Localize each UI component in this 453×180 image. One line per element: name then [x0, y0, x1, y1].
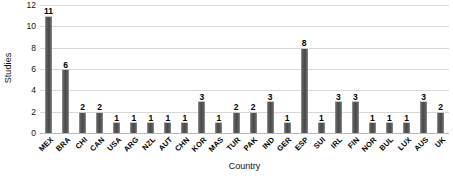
x-tick-label: LUX	[395, 135, 412, 152]
bar-value-label: 1	[387, 114, 392, 123]
bar[interactable]: 3	[267, 101, 274, 133]
bar[interactable]: 1	[113, 122, 120, 133]
plot-area: 1162211111312231813311132	[40, 5, 449, 133]
bar-value-label: 1	[148, 114, 153, 123]
x-tick-slot: ESP	[296, 133, 313, 159]
bar[interactable]: 1	[318, 122, 325, 133]
bar-slot: 2	[228, 5, 245, 133]
bar[interactable]: 8	[301, 48, 308, 133]
bar[interactable]: 2	[233, 112, 240, 133]
y-axis-title: Studies	[0, 0, 16, 136]
x-tick-label: USA	[105, 135, 123, 153]
bar-slot: 1	[364, 5, 381, 133]
y-tick-label: 4	[31, 85, 36, 95]
y-tick-label: 6	[31, 64, 36, 74]
bar[interactable]: 2	[96, 112, 103, 133]
x-tick-label: NZL	[140, 135, 157, 152]
x-tick-label: MEX	[37, 135, 55, 153]
bar-value-label: 1	[131, 114, 136, 123]
bar-slot: 1	[176, 5, 193, 133]
x-tick-label: BRA	[54, 135, 72, 153]
bar-slot: 1	[125, 5, 142, 133]
bar[interactable]: 6	[62, 69, 69, 133]
bar[interactable]: 3	[335, 101, 342, 133]
bar-slot: 1	[381, 5, 398, 133]
bar-slot: 2	[74, 5, 91, 133]
bar-value-label: 1	[319, 114, 324, 123]
x-tick-slot: IRL	[330, 133, 347, 159]
bar[interactable]: 1	[403, 122, 410, 133]
x-tick-label: SUI	[312, 135, 328, 151]
x-tick-label: MAS	[207, 135, 226, 154]
bar-slot: 2	[91, 5, 108, 133]
y-tick-label: 8	[31, 43, 36, 53]
bar-value-label: 2	[438, 103, 443, 112]
x-tick-label: IRL	[329, 135, 344, 150]
bar-value-label: 3	[336, 93, 341, 102]
x-tick-label: IND	[261, 135, 277, 151]
bar-value-label: 3	[421, 93, 426, 102]
bar[interactable]: 3	[198, 101, 205, 133]
bars-container: 1162211111312231813311132	[40, 5, 449, 133]
bar[interactable]: 2	[79, 112, 86, 133]
x-tick-slot: BRA	[57, 133, 74, 159]
bar[interactable]: 1	[369, 122, 376, 133]
bar[interactable]: 2	[437, 112, 444, 133]
x-tick-label: CHN	[173, 135, 191, 153]
bar-slot: 1	[210, 5, 227, 133]
x-tick-label: AUS	[412, 135, 430, 153]
x-tick-label: ARG	[122, 135, 141, 154]
bar-slot: 1	[142, 5, 159, 133]
bar[interactable]: 1	[284, 122, 291, 133]
bar-slot: 1	[159, 5, 176, 133]
bar[interactable]: 3	[420, 101, 427, 133]
bar[interactable]: 1	[147, 122, 154, 133]
bar[interactable]: 1	[164, 122, 171, 133]
x-axis-title: Country	[40, 161, 449, 171]
x-tick-label: BUL	[378, 135, 396, 153]
bar[interactable]: 1	[130, 122, 137, 133]
y-tick-label: 0	[31, 128, 36, 138]
bar-value-label: 3	[268, 93, 273, 102]
bar-value-label: 2	[234, 103, 239, 112]
y-tick-label: 12	[27, 0, 36, 10]
bar-slot: 11	[40, 5, 57, 133]
bar-slot: 3	[193, 5, 210, 133]
y-tick-label: 10	[27, 21, 36, 31]
y-axis-title-label: Studies	[3, 53, 13, 84]
x-tick-slot: AUS	[415, 133, 432, 159]
bar-value-label: 11	[44, 7, 53, 16]
bar-value-label: 1	[114, 114, 119, 123]
x-tick-label: KOR	[190, 135, 209, 154]
y-tick-label: 2	[31, 107, 36, 117]
bar-slot: 1	[313, 5, 330, 133]
x-tick-label: NOR	[360, 135, 379, 154]
bar-value-label: 1	[217, 114, 222, 123]
bar-slot: 2	[432, 5, 449, 133]
bar[interactable]: 1	[181, 122, 188, 133]
bar-value-label: 2	[97, 103, 102, 112]
bar[interactable]: 2	[250, 112, 257, 133]
x-tick-slot: UK	[432, 133, 449, 159]
bar[interactable]: 1	[386, 122, 393, 133]
bar-value-label: 1	[370, 114, 375, 123]
bar-slot: 3	[262, 5, 279, 133]
bar-value-label: 1	[183, 114, 188, 123]
x-tick-label: TUR	[225, 135, 243, 153]
bar-slot: 1	[279, 5, 296, 133]
x-tick-label: CHI	[73, 135, 89, 151]
bar-value-label: 6	[63, 61, 68, 70]
bar-value-label: 3	[353, 93, 358, 102]
bar-slot: 3	[415, 5, 432, 133]
x-axis-tick-labels: MEXBRACHICANUSAARGNZLAUTCHNKORMASTURPAKI…	[40, 133, 449, 159]
bar[interactable]: 3	[352, 101, 359, 133]
bar[interactable]: 11	[45, 16, 52, 133]
bar-value-label: 1	[404, 114, 409, 123]
x-tick-slot: SUI	[313, 133, 330, 159]
x-tick-label: GER	[275, 135, 293, 153]
bar-value-label: 2	[80, 103, 85, 112]
x-tick-label: PAK	[242, 135, 260, 153]
bar-slot: 6	[57, 5, 74, 133]
bar[interactable]: 1	[215, 122, 222, 133]
bar-value-label: 1	[285, 114, 290, 123]
